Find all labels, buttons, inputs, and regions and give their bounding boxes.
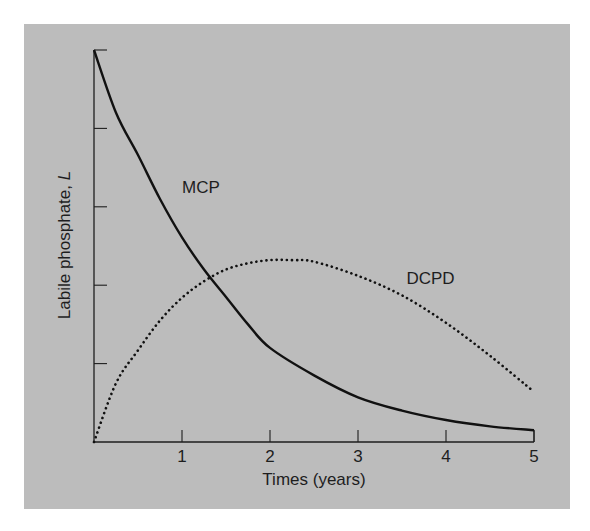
mcp-curve-label: MCP — [182, 178, 220, 197]
x-tick-label: 2 — [265, 447, 274, 466]
mcp-curve — [94, 50, 534, 430]
x-tick-label: 4 — [441, 447, 450, 466]
dcpd-curve — [94, 260, 534, 442]
x-tick-label: 1 — [177, 447, 186, 466]
dcpd-curve-label: DCPD — [406, 269, 454, 288]
axes: 12345 — [94, 50, 539, 466]
series-group — [94, 50, 534, 442]
x-tick-label: 5 — [529, 447, 538, 466]
x-tick-label: 3 — [353, 447, 362, 466]
y-axis-label: Labile phosphate, L — [55, 171, 74, 319]
x-axis-label: Times (years) — [262, 470, 365, 489]
y-axis-label-text: Labile phosphate, — [55, 180, 74, 319]
line-chart: 12345 Times (years) Labile phosphate, L … — [0, 0, 590, 531]
labels-group: Times (years) Labile phosphate, L MCPDCP… — [55, 171, 455, 489]
y-axis-label-italic: L — [55, 171, 74, 180]
